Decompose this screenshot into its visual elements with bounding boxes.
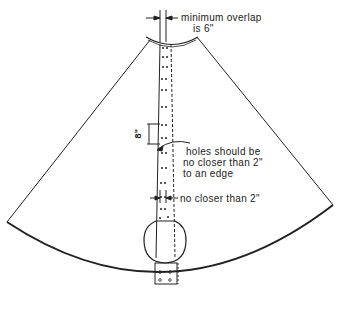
cone-right-edge (197, 37, 333, 205)
hole-gap-label: no closer than 2" (180, 193, 260, 204)
spacing-label: 8" (133, 129, 144, 139)
strip-left-edge (156, 44, 160, 258)
bottom-tab (155, 263, 177, 284)
hole-edge-label-line3: to an edge (183, 168, 233, 179)
cone-left-edge (7, 40, 150, 222)
overlap-label-line1: minimum overlap (181, 12, 262, 23)
hole-edge-label-line2: no closer than 2" (183, 157, 263, 168)
pattern-diagram (0, 0, 351, 309)
hole-edge-label-line1: holes should be (186, 146, 261, 157)
oval-opening (144, 221, 186, 263)
overlap-label-line2: is 6" (193, 23, 214, 34)
holes (159, 47, 172, 281)
strip-dashed-edge (171, 44, 175, 258)
